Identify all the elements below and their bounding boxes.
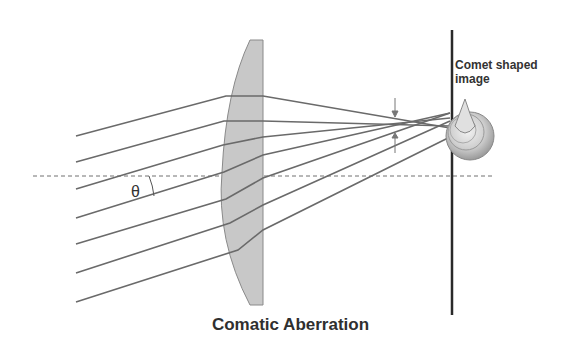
- lens: [221, 40, 263, 305]
- comet-label-line2: image: [455, 72, 545, 86]
- diagram-title: Comatic Aberration: [0, 315, 581, 335]
- angle-arc: [149, 176, 154, 196]
- comet-label-line1: Comet shaped: [455, 58, 545, 72]
- comatic-aberration-diagram: [0, 0, 581, 353]
- angle-label: θ: [131, 183, 140, 201]
- comet-label: Comet shaped image: [455, 58, 545, 86]
